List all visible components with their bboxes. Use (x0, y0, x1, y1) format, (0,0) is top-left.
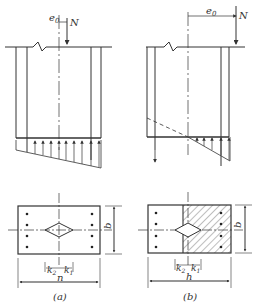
k1-label-a: k1 (64, 265, 73, 276)
pressure-arrows (197, 138, 229, 160)
break-line (146, 42, 245, 51)
eccentricity-label-a: e0 (49, 12, 60, 25)
load-label-b: N (238, 10, 249, 21)
k2-label-a: k2 (47, 265, 56, 276)
diagram-canvas: e0 N e0 N (0, 0, 258, 306)
k2-label-b: k2 (176, 263, 185, 274)
width-label-b: b (232, 222, 243, 228)
panel-b-plan (138, 192, 252, 288)
pressure-arrows (35, 141, 99, 167)
panel-b-elevation (146, 6, 245, 166)
caption-a: (a) (53, 291, 67, 302)
caption-b: (b) (183, 291, 197, 302)
panel-a-elevation (5, 15, 112, 168)
length-label-b: h (186, 271, 192, 282)
length-label-a: n (57, 272, 63, 283)
load-label-a: N (69, 17, 80, 28)
width-label-a: b (102, 223, 113, 229)
break-line (5, 42, 112, 51)
rebar-dots-a (26, 213, 94, 249)
